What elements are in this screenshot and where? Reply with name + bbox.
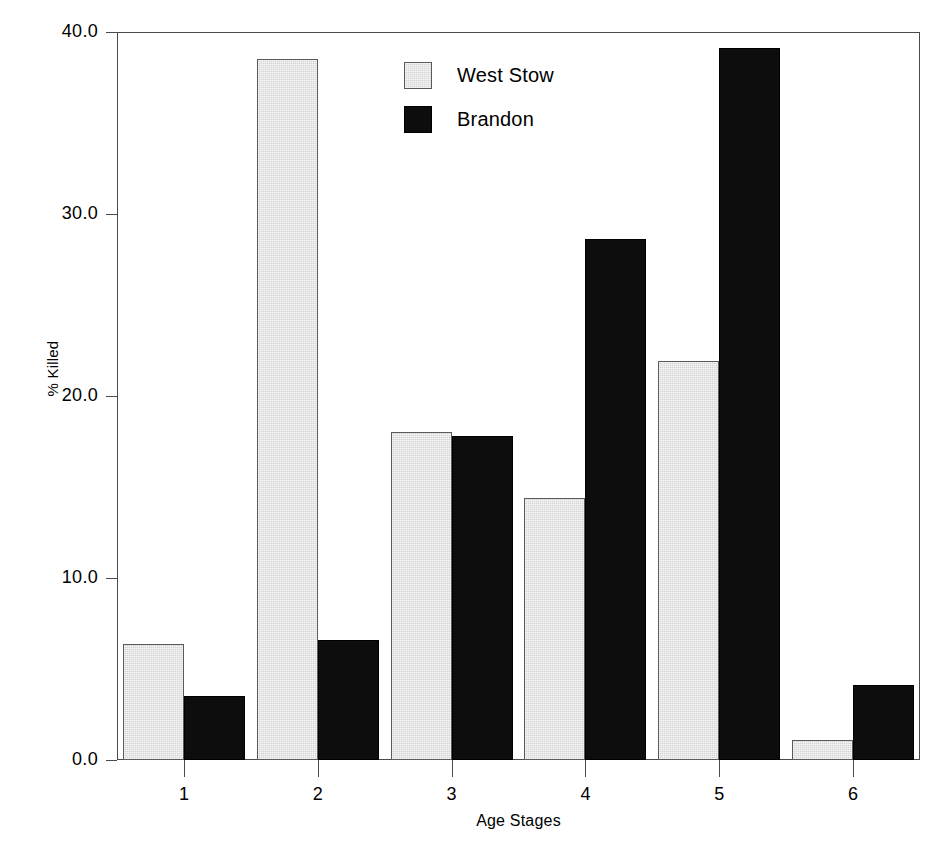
x-tick-mark <box>318 760 319 777</box>
y-tick-mark <box>106 760 117 761</box>
x-tick-label: 5 <box>699 784 739 805</box>
bar-west-stow-stage-6 <box>792 740 853 760</box>
x-tick-mark <box>853 760 854 777</box>
x-tick-mark <box>452 760 453 777</box>
bar-brandon-stage-2 <box>318 640 379 760</box>
y-axis-tick: 0.0 <box>0 760 117 761</box>
x-tick-label: 4 <box>565 784 605 805</box>
y-tick-mark <box>106 214 117 215</box>
y-axis-tick: 20.0 <box>0 396 117 397</box>
legend-label: Brandon <box>457 108 534 131</box>
bar-brandon-stage-1 <box>184 696 245 760</box>
x-tick-mark <box>585 760 586 777</box>
x-tick-mark <box>719 760 720 777</box>
y-axis-title: % Killed <box>44 309 61 429</box>
x-tick-label: 6 <box>833 784 873 805</box>
x-tick-label: 1 <box>164 784 204 805</box>
bar-west-stow-stage-4 <box>524 498 585 760</box>
legend-swatch <box>404 106 432 133</box>
bar-brandon-stage-6 <box>853 685 914 760</box>
bar-west-stow-stage-5 <box>658 361 719 760</box>
x-axis-title: Age Stages <box>117 812 920 830</box>
legend: West StowBrandon <box>404 58 644 146</box>
bar-brandon-stage-5 <box>719 48 780 760</box>
bar-chart: % Killed 0.010.020.030.040.0 123456 Age … <box>0 0 941 858</box>
legend-item-brandon: Brandon <box>404 102 644 136</box>
y-tick-label: 0.0 <box>72 749 98 770</box>
y-axis-tick: 30.0 <box>0 214 117 215</box>
bar-brandon-stage-3 <box>452 436 513 760</box>
bar-west-stow-stage-1 <box>123 644 184 760</box>
y-axis-tick: 40.0 <box>0 32 117 33</box>
y-tick-label: 30.0 <box>62 203 98 224</box>
x-tick-label: 3 <box>432 784 472 805</box>
y-tick-mark <box>106 396 117 397</box>
y-tick-mark <box>106 32 117 33</box>
bar-west-stow-stage-2 <box>257 59 318 760</box>
y-tick-mark <box>106 578 117 579</box>
bar-brandon-stage-4 <box>585 239 646 760</box>
y-tick-label: 20.0 <box>62 385 98 406</box>
legend-item-west-stow: West Stow <box>404 58 644 92</box>
legend-swatch <box>404 62 432 89</box>
x-tick-label: 2 <box>298 784 338 805</box>
legend-label: West Stow <box>457 64 554 87</box>
x-tick-mark <box>184 760 185 777</box>
y-tick-label: 40.0 <box>62 21 98 42</box>
bar-west-stow-stage-3 <box>391 432 452 760</box>
y-tick-label: 10.0 <box>62 567 98 588</box>
y-axis-tick: 10.0 <box>0 578 117 579</box>
